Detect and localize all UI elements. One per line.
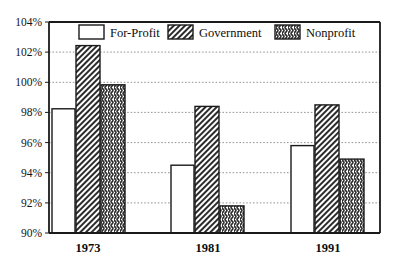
- bar-chart: 104% 102% 100% 98% 96% 94% 92% 90%: [0, 0, 402, 273]
- y-tick-label: 94%: [21, 167, 43, 179]
- y-tick-label: 100%: [15, 76, 42, 88]
- y-tick-label: 104%: [15, 16, 42, 28]
- bar-for-profit-1991: [291, 146, 314, 233]
- x-tick-label-1973: 1973: [76, 241, 101, 255]
- bar-government-1991: [315, 105, 339, 233]
- bar-government-1973: [76, 46, 100, 233]
- chart-legend: For-Profit Government Nonprofit: [79, 25, 356, 40]
- x-tick-label-1981: 1981: [196, 241, 221, 255]
- legend-label-nonprofit: Nonprofit: [306, 26, 356, 40]
- chart-canvas: 104% 102% 100% 98% 96% 94% 92% 90%: [0, 0, 402, 273]
- legend-swatch-government: [168, 25, 193, 39]
- y-tick-label: 90%: [21, 227, 43, 239]
- bar-for-profit-1973: [52, 109, 75, 233]
- y-tick-label: 102%: [15, 46, 42, 58]
- legend-label-for-profit: For-Profit: [110, 26, 160, 40]
- bar-nonprofit-1991: [340, 159, 364, 233]
- legend-swatch-nonprofit: [275, 25, 300, 39]
- bar-nonprofit-1981: [220, 206, 244, 233]
- legend-label-government: Government: [199, 26, 262, 40]
- x-tick-label-1991: 1991: [316, 241, 341, 255]
- y-tick-label: 96%: [21, 137, 43, 149]
- bar-government-1981: [195, 106, 219, 233]
- bar-nonprofit-1973: [101, 85, 125, 233]
- bar-for-profit-1981: [171, 165, 194, 233]
- legend-swatch-for-profit: [79, 25, 104, 39]
- y-tick-label: 98%: [21, 106, 43, 118]
- y-tick-label: 92%: [21, 197, 43, 209]
